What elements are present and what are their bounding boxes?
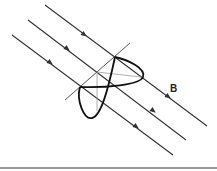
magnetic-field-diagram: B bbox=[0, 0, 217, 171]
field-line-2 bbox=[28, 20, 186, 140]
loop-axis-line bbox=[65, 43, 130, 100]
field-line-1 bbox=[45, 5, 207, 126]
field-label-b: B bbox=[170, 83, 177, 94]
bottom-divider bbox=[0, 167, 217, 169]
field-line-3 bbox=[12, 35, 173, 155]
